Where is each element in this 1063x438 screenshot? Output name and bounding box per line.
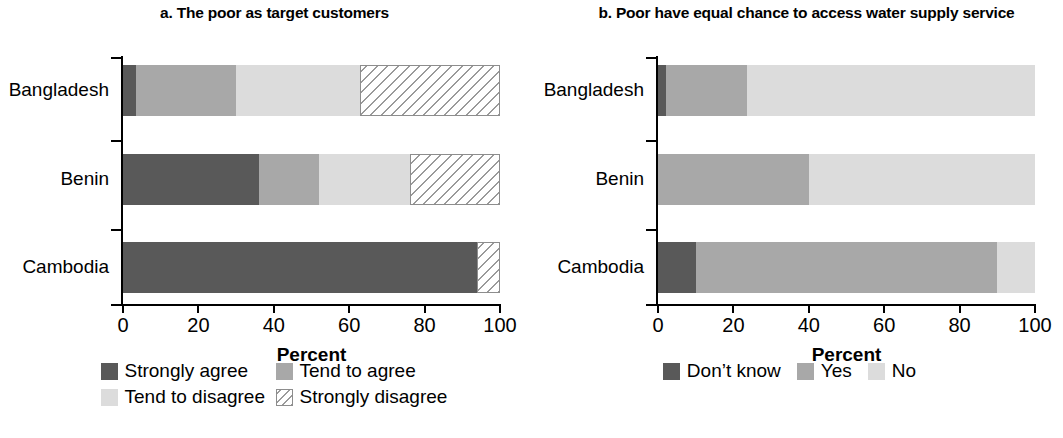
- panel-b-title: b. Poor have equal chance to access wate…: [560, 4, 1053, 23]
- panel-a-x-axis: [121, 304, 500, 306]
- stacked-bar-benin: [658, 154, 1035, 205]
- legend-item: Don’t know: [663, 360, 781, 382]
- x-tick-label: 80: [413, 314, 435, 337]
- legend-label: Strongly agree: [125, 360, 249, 382]
- legend-swatch-icon: [101, 389, 118, 406]
- category-label-bangladesh: Bangladesh: [9, 79, 109, 101]
- legend-label: Strongly disagree: [300, 386, 448, 408]
- bar-segment: [747, 65, 1035, 116]
- bar-segment: [319, 154, 409, 205]
- stacked-bar-cambodia: [658, 242, 1035, 293]
- category-label-bangladesh: Bangladesh: [544, 79, 644, 101]
- y-tick-mark: [111, 304, 121, 306]
- bar-segment: [136, 65, 236, 116]
- panel-b-legend: Don’t knowYesNo: [532, 360, 1063, 382]
- legend-swatch-icon: [797, 363, 814, 380]
- legend-label: Tend to disagree: [125, 386, 266, 408]
- legend-label: No: [892, 360, 916, 382]
- bar-segment: [123, 65, 136, 116]
- x-tick-label: 60: [873, 314, 895, 337]
- x-tick-mark: [499, 304, 501, 313]
- x-tick-mark: [959, 304, 961, 313]
- bar-segment: [666, 65, 747, 116]
- y-tick-mark: [646, 304, 656, 306]
- panel-a: a. The poor as target customers 02040608…: [0, 0, 531, 438]
- bar-segment: [997, 242, 1035, 293]
- legend-swatch-icon: [276, 389, 293, 406]
- x-tick-label: 20: [187, 314, 209, 337]
- bar-segment: [477, 242, 500, 293]
- panel-a-legend: Strongly agreeTend to agreeTend to disag…: [0, 360, 531, 412]
- category-label-benin: Benin: [60, 168, 109, 190]
- x-tick-mark: [1034, 304, 1036, 313]
- y-tick-mark: [111, 140, 121, 142]
- x-tick-label: 0: [117, 314, 128, 337]
- bar-segment: [236, 65, 360, 116]
- y-tick-mark: [111, 57, 121, 59]
- legend-label: Tend to agree: [300, 360, 416, 382]
- panel-a-plot-area: 020406080100 BangladeshBeninCambodia Per…: [123, 56, 500, 304]
- panel-b-plot-area: 020406080100 BangladeshBeninCambodia Per…: [658, 56, 1035, 304]
- x-tick-mark: [883, 304, 885, 313]
- y-tick-mark: [646, 229, 656, 231]
- legend-item: Strongly disagree: [276, 386, 451, 408]
- bar-segment: [696, 242, 998, 293]
- category-label-cambodia: Cambodia: [557, 256, 644, 278]
- legend-swatch-icon: [868, 363, 885, 380]
- bar-segment: [360, 65, 499, 116]
- panel-a-title: a. The poor as target customers: [28, 4, 521, 23]
- legend-swatch-icon: [663, 363, 680, 380]
- x-tick-label: 100: [1018, 314, 1051, 337]
- bar-segment: [410, 154, 500, 205]
- x-tick-label: 0: [652, 314, 663, 337]
- y-tick-mark: [646, 57, 656, 59]
- bar-segment: [658, 242, 696, 293]
- category-label-cambodia: Cambodia: [22, 256, 109, 278]
- x-tick-label: 60: [338, 314, 360, 337]
- legend-label: Yes: [821, 360, 852, 382]
- y-tick-mark: [646, 140, 656, 142]
- figure-container: a. The poor as target customers 02040608…: [0, 0, 1063, 438]
- stacked-bar-benin: [123, 154, 500, 205]
- legend-item: No: [868, 360, 916, 382]
- x-tick-label: 100: [483, 314, 516, 337]
- x-tick-mark: [732, 304, 734, 313]
- category-label-benin: Benin: [595, 168, 644, 190]
- panel-b-x-axis: [656, 304, 1035, 306]
- x-tick-mark: [273, 304, 275, 313]
- stacked-bar-bangladesh: [658, 65, 1035, 116]
- legend-swatch-icon: [276, 363, 293, 380]
- x-tick-label: 20: [722, 314, 744, 337]
- legend-swatch-icon: [101, 363, 118, 380]
- x-tick-mark: [197, 304, 199, 313]
- x-tick-mark: [348, 304, 350, 313]
- x-tick-mark: [424, 304, 426, 313]
- x-tick-label: 80: [948, 314, 970, 337]
- stacked-bar-bangladesh: [123, 65, 500, 116]
- legend-item: Tend to disagree: [101, 386, 276, 408]
- bar-segment: [259, 154, 319, 205]
- legend-item: Yes: [797, 360, 852, 382]
- bar-segment: [658, 154, 809, 205]
- bar-segment: [123, 154, 259, 205]
- x-tick-mark: [657, 304, 659, 313]
- panel-b: b. Poor have equal chance to access wate…: [532, 0, 1063, 438]
- bar-segment: [123, 242, 477, 293]
- legend-label: Don’t know: [687, 360, 781, 382]
- bar-segment: [809, 154, 1035, 205]
- x-tick-label: 40: [798, 314, 820, 337]
- legend-item: Tend to agree: [276, 360, 451, 382]
- bar-segment: [658, 65, 666, 116]
- stacked-bar-cambodia: [123, 242, 500, 293]
- y-tick-mark: [111, 229, 121, 231]
- x-tick-mark: [808, 304, 810, 313]
- x-tick-mark: [122, 304, 124, 313]
- legend-item: Strongly agree: [101, 360, 276, 382]
- x-tick-label: 40: [263, 314, 285, 337]
